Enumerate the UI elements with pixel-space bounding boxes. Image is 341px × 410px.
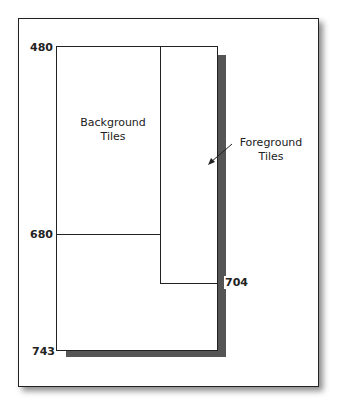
arrow-icon bbox=[205, 142, 235, 168]
foreground-caption-line2: Tiles bbox=[236, 150, 306, 164]
label-704: 704 bbox=[224, 276, 249, 289]
background-caption-line2: Tiles bbox=[68, 130, 158, 144]
line-680 bbox=[56, 234, 161, 235]
label-480: 480 bbox=[29, 41, 54, 54]
label-743: 743 bbox=[31, 345, 56, 358]
background-tiles-caption: Background Tiles bbox=[68, 116, 158, 144]
shadow-right bbox=[217, 55, 226, 357]
shadow-bottom bbox=[66, 350, 226, 357]
foreground-caption-line1: Foreground bbox=[236, 136, 306, 150]
foreground-tiles-caption: Foreground Tiles bbox=[236, 136, 306, 164]
label-680: 680 bbox=[29, 228, 54, 241]
background-caption-line1: Background bbox=[68, 116, 158, 130]
